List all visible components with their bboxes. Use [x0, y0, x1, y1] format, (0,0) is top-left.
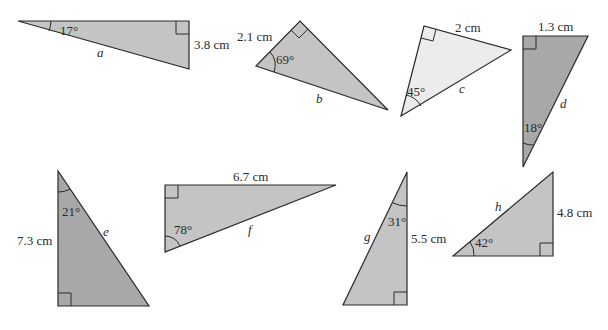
side-length-label: 4.8 cm — [557, 205, 592, 220]
angle-label: 45° — [407, 84, 425, 99]
triangles-diagram: 17° a 3.8 cm 2.1 cm 69° b 2 cm 45° c 1.3… — [0, 0, 608, 330]
angle-label: 31° — [388, 214, 406, 229]
angle-label: 17° — [60, 23, 78, 38]
unknown-side-label: d — [560, 96, 567, 111]
angle-label: 42° — [475, 235, 493, 250]
triangle-e: 21° e 7.3 cm — [17, 171, 149, 306]
triangle-f: 6.7 cm 78° f — [165, 169, 336, 252]
unknown-side-label: c — [459, 81, 465, 96]
triangle-g: 31° g 5.5 cm — [343, 172, 446, 305]
triangle-h: h 42° 4.8 cm — [453, 172, 592, 256]
angle-label: 21° — [62, 204, 80, 219]
unknown-side-label: b — [316, 91, 323, 106]
triangle-c: 2 cm 45° c — [401, 20, 511, 116]
side-length-label: 3.8 cm — [194, 37, 229, 52]
triangle-b: 2.1 cm 69° b — [237, 21, 388, 110]
unknown-side-label: g — [364, 229, 371, 244]
unknown-side-label: h — [495, 199, 502, 214]
side-length-label: 5.5 cm — [411, 231, 446, 246]
side-length-label: 1.3 cm — [538, 19, 573, 34]
side-length-label: 2 cm — [455, 20, 481, 35]
side-length-label: 7.3 cm — [17, 233, 52, 248]
triangle-a: 17° a 3.8 cm — [18, 21, 229, 69]
angle-label: 18° — [524, 120, 542, 135]
triangle-d: 1.3 cm d 18° — [523, 19, 588, 167]
unknown-side-label: e — [103, 224, 109, 239]
unknown-side-label: a — [97, 45, 104, 60]
unknown-side-label: f — [248, 222, 254, 237]
angle-label: 78° — [174, 222, 192, 237]
angle-label: 69° — [276, 52, 294, 67]
side-length-label: 2.1 cm — [237, 29, 272, 44]
side-length-label: 6.7 cm — [233, 169, 268, 184]
